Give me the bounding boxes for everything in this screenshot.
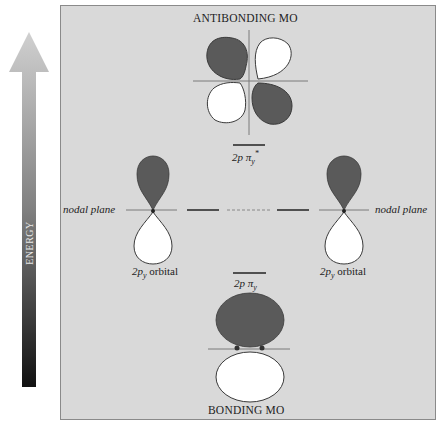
left-orbital-label: 2py orbital [132, 265, 178, 280]
bonding-mo [208, 273, 290, 402]
antibonding-title: ANTIBONDING MO [193, 12, 298, 24]
antibonding-level-label: 2p πy* [232, 149, 259, 166]
nodal-plane-left-label: nodal plane [63, 203, 115, 215]
right-orbital-label: 2py orbital [320, 265, 366, 280]
bonding-title: BONDING MO [208, 404, 284, 416]
nodal-plane-right-label: nodal plane [375, 203, 427, 215]
antibonding-mo [193, 30, 308, 145]
left-2py-orbital [126, 156, 177, 264]
right-2py-orbital [319, 156, 369, 264]
bonding-level-label: 2p πy [234, 277, 257, 292]
